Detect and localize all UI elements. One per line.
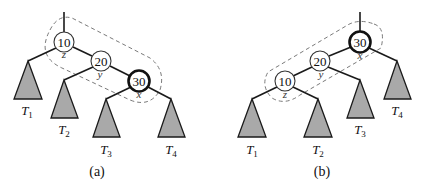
node-10: 10 z (275, 71, 295, 100)
svg-text:T4: T4 (165, 142, 177, 159)
edge-20-T2 (64, 67, 93, 80)
node-var-label: y (97, 68, 103, 80)
edge-30-T4 (148, 87, 171, 99)
node-30: 30 x (129, 71, 150, 101)
node-key: 20 (95, 54, 108, 69)
edge-30-T4 (369, 48, 397, 61)
edge-20-10 (293, 67, 312, 76)
svg-text:T2: T2 (312, 142, 324, 159)
svg-text:T1: T1 (21, 103, 33, 120)
subtree-T3: T3 (347, 80, 374, 139)
node-var-label: x (357, 49, 363, 61)
edge-30-T3 (106, 87, 131, 99)
edge-10-T1 (252, 87, 277, 99)
node-var-label: x (136, 88, 142, 100)
svg-text:T4: T4 (391, 103, 403, 120)
subtree-T1: T1 (238, 99, 266, 159)
node-var-label: z (282, 88, 288, 100)
subtree-T4: T4 (384, 61, 411, 120)
edge-10-T2 (293, 87, 318, 99)
node-key: 30 (133, 74, 146, 89)
edge-10-20 (73, 47, 92, 56)
node-20: 20 y (91, 51, 111, 80)
node-var-label: y (318, 68, 324, 80)
node-30: 30 x (350, 32, 371, 62)
diagram-canvas: 10 z 20 y 30 x T1 T2 T3 T4 ( (0, 0, 427, 187)
svg-text:T1: T1 (246, 142, 258, 159)
svg-text:T2: T2 (58, 122, 70, 139)
node-var-label: z (61, 48, 67, 60)
edge-20-30 (110, 66, 130, 76)
panel-b: 30 x 20 y 10 z T1 T2 T3 T4 ( (238, 12, 411, 180)
edge-10-T1 (28, 48, 56, 61)
node-key: 20 (314, 54, 327, 69)
svg-text:T3: T3 (354, 122, 366, 139)
node-key: 30 (354, 35, 367, 50)
panel-a: 10 z 20 y 30 x T1 T2 T3 T4 ( (14, 12, 185, 180)
subtree-T2: T2 (304, 99, 332, 159)
panel-caption: (b) (314, 164, 331, 180)
node-10: 10 z (54, 32, 74, 60)
edge-30-20 (329, 47, 351, 56)
subtree-T3: T3 (93, 99, 120, 159)
panel-caption: (a) (89, 164, 105, 180)
svg-text:T3: T3 (100, 142, 112, 159)
node-20: 20 y (310, 51, 330, 80)
subtree-T4: T4 (158, 99, 185, 159)
subtree-T1: T1 (14, 61, 42, 120)
node-key: 10 (279, 74, 292, 89)
subtree-T2: T2 (51, 80, 78, 139)
